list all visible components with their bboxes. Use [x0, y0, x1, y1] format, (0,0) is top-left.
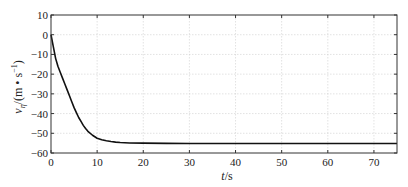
- y-tick-label: −30: [31, 88, 49, 100]
- y-tick-label: −50: [31, 127, 49, 139]
- y-axis-exp: −1: [10, 64, 19, 73]
- x-tick-label: 60: [322, 156, 334, 168]
- x-tick-label: 0: [48, 156, 54, 168]
- x-tick-label: 30: [184, 156, 196, 168]
- x-axis-unit: /s: [225, 169, 233, 183]
- grid-lines: [51, 15, 397, 153]
- line-chart: 010203040506070 100−10−20−30−40−50−60 t/…: [0, 0, 408, 187]
- y-tick-label: 0: [43, 29, 49, 41]
- x-tick-label: 20: [138, 156, 150, 168]
- x-tick-label: 40: [230, 156, 242, 168]
- x-tick-label: 10: [92, 156, 104, 168]
- axis-ticks: [51, 15, 397, 153]
- y-tick-labels: 100−10−20−30−40−50−60: [31, 9, 49, 159]
- y-axis-close: ): [11, 60, 25, 64]
- x-tick-labels: 010203040506070: [48, 156, 380, 168]
- data-series: [51, 35, 397, 144]
- x-tick-label: 70: [368, 156, 380, 168]
- plot-frame: [51, 15, 397, 153]
- series-line: [51, 35, 397, 144]
- y-tick-label: −60: [31, 147, 49, 159]
- y-axis-label: vη/(m • s−1): [10, 60, 27, 113]
- x-tick-label: 50: [276, 156, 288, 168]
- y-tick-label: −10: [31, 48, 49, 60]
- y-axis-unit: /(m • s: [11, 73, 25, 105]
- x-axis-label: t/s: [221, 169, 233, 183]
- y-tick-label: −40: [31, 108, 49, 120]
- y-tick-label: 10: [37, 9, 49, 21]
- y-tick-label: −20: [31, 68, 49, 80]
